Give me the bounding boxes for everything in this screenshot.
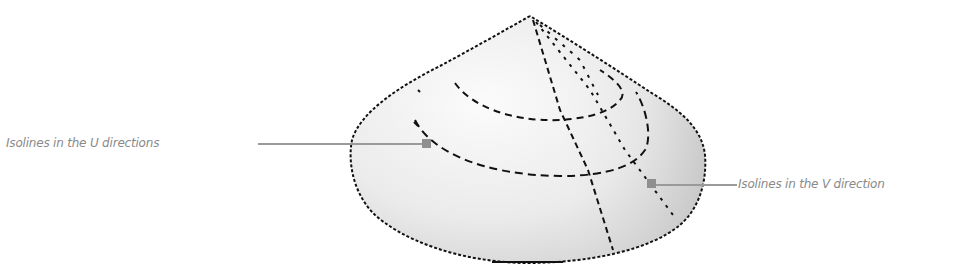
v-direction-label: Isolines in the V direction [738,177,885,191]
u-leader-marker [422,139,431,148]
u-direction-label: Isolines in the U directions [6,136,159,150]
cone-isolines-figure: Isolines in the U directions Isolines in… [0,0,979,276]
v-leader-marker [647,179,656,188]
